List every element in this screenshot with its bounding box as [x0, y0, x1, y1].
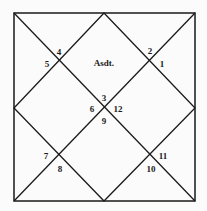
- house-12: 12: [114, 104, 124, 114]
- house-8: 8: [58, 164, 63, 174]
- house-1: 1: [160, 59, 165, 69]
- house-9: 9: [102, 116, 107, 126]
- house-4: 4: [57, 47, 62, 57]
- house-7: 7: [44, 151, 49, 161]
- house-3: 3: [102, 93, 107, 103]
- house-11: 11: [159, 151, 168, 161]
- house-5: 5: [45, 59, 50, 69]
- house-6: 6: [90, 104, 95, 114]
- house-2: 2: [148, 46, 153, 56]
- ascendant-label: Asdt.: [94, 58, 114, 68]
- house-10: 10: [147, 164, 157, 174]
- horoscope-chart: Asdt. 4 5 2 1 3 6 12 9 7 8 11 10: [0, 0, 207, 211]
